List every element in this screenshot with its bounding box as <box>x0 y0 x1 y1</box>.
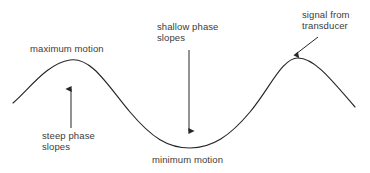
label-shallow-phase-slopes-line1: shallow phase <box>157 21 219 32</box>
wave-diagram: maximum motion shallow phase slopes sign… <box>0 0 370 173</box>
label-minimum-motion-line1: minimum motion <box>152 154 223 165</box>
label-steep-phase-slopes: steep phase slopes <box>42 130 95 152</box>
label-signal-from-transducer-line1: signal from <box>302 9 350 20</box>
label-signal-from-transducer: signal from transducer <box>302 9 350 31</box>
label-shallow-phase-slopes: shallow phase slopes <box>157 21 219 43</box>
label-steep-phase-slopes-line2: slopes <box>42 141 95 152</box>
label-signal-from-transducer-line2: transducer <box>302 20 350 31</box>
label-maximum-motion-line1: maximum motion <box>30 43 104 54</box>
label-minimum-motion: minimum motion <box>152 154 223 165</box>
label-maximum-motion: maximum motion <box>30 43 104 54</box>
label-steep-phase-slopes-line1: steep phase <box>42 130 95 141</box>
signal-source-arrow-icon <box>296 37 318 54</box>
label-shallow-phase-slopes-line2: slopes <box>157 32 219 43</box>
